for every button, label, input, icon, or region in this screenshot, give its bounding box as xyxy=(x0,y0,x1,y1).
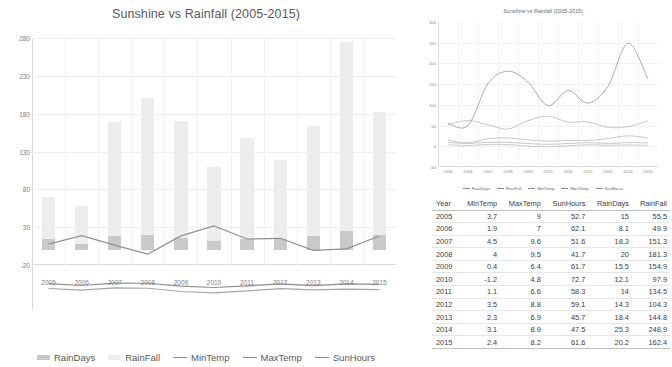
x-tick-label: 2014 xyxy=(339,279,353,286)
legend-label: MinTemp xyxy=(537,186,554,191)
legend-item-sunhours[interactable]: SunHours xyxy=(315,352,375,363)
table-cell: 61.6 xyxy=(544,336,589,349)
mini-chart: Sunshine vs Rainfall (2005-2015) 3002502… xyxy=(414,2,672,198)
legend-label: RainFall xyxy=(506,186,521,191)
table-cell: 2010 xyxy=(432,273,459,286)
line-series-sunhours xyxy=(49,226,380,254)
table-header: YearMinTempMaxTempSunHoursRainDaysRainFa… xyxy=(432,198,670,210)
x-tick-label: 2015 xyxy=(372,279,386,286)
y-tick-label: 300 xyxy=(416,20,436,25)
mini-legend-item-rainfall[interactable]: RainFall xyxy=(497,186,521,191)
table-cell: 2011 xyxy=(432,286,459,299)
table-cell: 59.1 xyxy=(544,298,589,311)
table-cell: 20.2 xyxy=(588,336,632,349)
table-cell: -1.2 xyxy=(459,273,500,286)
table-cell: 9.5 xyxy=(500,248,544,261)
main-chart-legend: RainDaysRainFallMinTempMaxTempSunHours xyxy=(0,352,412,363)
x-tick-label: 2014 xyxy=(623,169,632,174)
legend-swatch-icon xyxy=(243,357,257,358)
legend-swatch-icon xyxy=(108,355,121,360)
line-series-mintemp xyxy=(49,288,380,293)
legend-label: MaxTemp xyxy=(261,352,302,363)
table-column-header: Year xyxy=(432,198,459,210)
mini-chart-title: Sunshine vs Rainfall (2005-2015) xyxy=(414,8,672,14)
y-tick-label: -50 xyxy=(416,165,436,170)
table-cell: 6.9 xyxy=(500,311,544,324)
x-tick-label: 2005 xyxy=(41,279,55,286)
main-chart: Sunshine vs Rainfall (2005-2015) 2802301… xyxy=(0,0,412,367)
y-tick-label: -20 xyxy=(0,262,30,269)
table-cell: 14.3 xyxy=(588,298,632,311)
mini-line-series-rainfall xyxy=(448,43,648,128)
x-tick-label: 2006 xyxy=(463,169,472,174)
y-tick-label: 200 xyxy=(416,61,436,66)
table-cell: 25.3 xyxy=(588,323,632,336)
legend-item-maxtemp[interactable]: MaxTemp xyxy=(243,352,302,363)
legend-item-mintemp[interactable]: MinTemp xyxy=(173,352,230,363)
legend-item-rainfall[interactable]: RainFall xyxy=(108,352,160,363)
legend-label: RainFall xyxy=(125,352,160,363)
mini-legend-item-sunhours[interactable]: SunHours xyxy=(596,186,624,191)
table-cell: 144.8 xyxy=(632,311,670,324)
table-cell: 8.2 xyxy=(500,336,544,349)
y-tick-label: 150 xyxy=(416,82,436,87)
y-tick-label: 100 xyxy=(416,102,436,107)
table-cell: 8.9 xyxy=(500,323,544,336)
table-cell: 45.7 xyxy=(544,311,589,324)
table-cell: 154.9 xyxy=(632,260,670,273)
table-row: 20053.7952.71555.5 xyxy=(432,210,670,223)
mini-line-series-maxtemp xyxy=(448,142,648,144)
mini-legend-item-raindays[interactable]: RainDays xyxy=(463,186,490,191)
legend-swatch-icon xyxy=(173,357,187,358)
table-row: 20061.9762.18.149.9 xyxy=(432,223,670,236)
table-cell: 62.1 xyxy=(544,223,589,236)
x-tick-label: 2005 xyxy=(443,169,452,174)
table-cell: 2015 xyxy=(432,336,459,349)
mini-line-series xyxy=(438,22,658,167)
table-cell: 8.1 xyxy=(588,223,632,236)
table-cell: 58.3 xyxy=(544,286,589,299)
y-tick-label: 230 xyxy=(0,72,30,79)
x-tick-label: 2009 xyxy=(523,169,532,174)
table-row: 20074.59.651.618.3151.3 xyxy=(432,235,670,248)
table-cell: 2008 xyxy=(432,248,459,261)
table-cell: 2014 xyxy=(432,323,459,336)
table-cell: 4 xyxy=(459,248,500,261)
table-cell: 55.5 xyxy=(632,210,670,223)
table-cell: 248.9 xyxy=(632,323,670,336)
x-tick-label: 2008 xyxy=(503,169,512,174)
mini-legend-item-mintemp[interactable]: MinTemp xyxy=(528,186,554,191)
x-tick-label: 2010 xyxy=(543,169,552,174)
legend-label: RainDays xyxy=(54,352,95,363)
table-cell: 1.9 xyxy=(459,223,500,236)
x-tick-label: 2013 xyxy=(603,169,612,174)
y-tick-label: 0 xyxy=(416,144,436,149)
legend-label: MaxTemp xyxy=(570,186,588,191)
table-cell: 2006 xyxy=(432,223,459,236)
y-tick-label: 80 xyxy=(0,186,30,193)
mini-legend-item-maxtemp[interactable]: MaxTemp xyxy=(561,186,588,191)
x-tick-label: 2009 xyxy=(174,279,188,286)
table-row: 200849.541.720181.3 xyxy=(432,248,670,261)
y-tick-label: 130 xyxy=(0,148,30,155)
legend-item-raindays[interactable]: RainDays xyxy=(37,352,95,363)
table-cell: 14 xyxy=(588,286,632,299)
legend-swatch-icon xyxy=(528,188,535,189)
legend-swatch-icon xyxy=(561,188,568,189)
table-cell: 51.6 xyxy=(544,235,589,248)
x-tick-label: 2006 xyxy=(74,279,88,286)
main-chart-title: Sunshine vs Rainfall (2005-2015) xyxy=(0,7,412,21)
table-cell: 6.4 xyxy=(500,260,544,273)
x-tick-label: 2012 xyxy=(273,279,287,286)
legend-label: MinTemp xyxy=(191,352,230,363)
mini-line-series-raindays xyxy=(448,136,648,143)
y-tick-label: 280 xyxy=(0,35,30,42)
table-cell: 2013 xyxy=(432,311,459,324)
table-cell: 18.4 xyxy=(588,311,632,324)
legend-swatch-icon xyxy=(463,188,470,189)
legend-swatch-icon xyxy=(497,188,504,189)
mini-chart-plot-area: 300250200150100500-50 200520062007200820… xyxy=(438,22,658,167)
table-cell: 15.5 xyxy=(588,260,632,273)
x-tick-label: 2011 xyxy=(240,279,254,286)
table-cell: 0.4 xyxy=(459,260,500,273)
